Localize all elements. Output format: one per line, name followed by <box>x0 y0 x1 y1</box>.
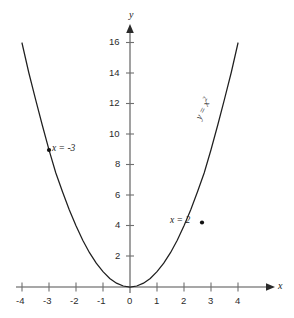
x-tick-label-3: 3 <box>208 296 213 306</box>
y-tick-label-8: 8 <box>115 159 120 169</box>
y-axis-arrowhead <box>126 24 134 33</box>
y-tick-label-16: 16 <box>109 37 120 47</box>
x-axis-arrowhead <box>266 283 275 291</box>
y-tick-label-6: 6 <box>115 190 120 200</box>
x-tick-label-1: 1 <box>154 296 159 306</box>
x-tick-label-neg3: -3 <box>43 296 51 306</box>
point-marker-x-minus-3 <box>47 148 51 152</box>
annotation-x-2: x = 2 <box>170 216 190 226</box>
x-axis-label: x <box>278 281 282 291</box>
x-tick-label-neg2: -2 <box>70 296 78 306</box>
y-tick-label-12: 12 <box>109 98 120 108</box>
plot-canvas <box>0 0 294 318</box>
point-marker-x-2 <box>200 220 204 224</box>
x-tick-label-neg4: -4 <box>16 296 24 306</box>
annotation-x-minus-3: x = -3 <box>52 144 75 154</box>
y-tick-label-4: 4 <box>115 220 120 230</box>
x-tick-label-2: 2 <box>181 296 186 306</box>
x-tick-label-neg1: -1 <box>97 296 105 306</box>
x-tick-label-0: 0 <box>127 296 132 306</box>
parabola-figure: y x -4 -3 -2 -1 0 1 2 3 4 2 4 6 8 10 12 … <box>0 0 294 318</box>
y-tick-label-2: 2 <box>115 251 120 261</box>
y-tick-label-14: 14 <box>109 68 120 78</box>
x-tick-label-4: 4 <box>235 296 240 306</box>
y-tick-label-10: 10 <box>109 129 120 139</box>
y-axis-label: y <box>129 10 133 20</box>
